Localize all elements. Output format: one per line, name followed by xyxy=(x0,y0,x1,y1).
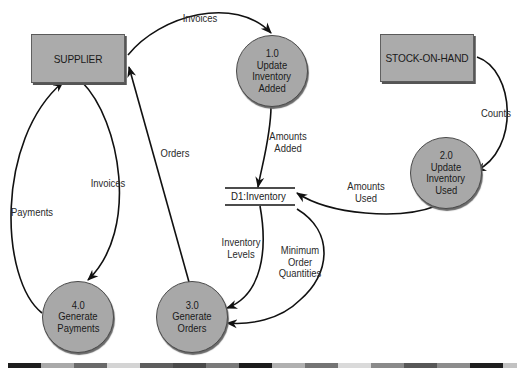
flow-orders xyxy=(129,67,189,282)
flow-label-text: Orders xyxy=(161,148,190,160)
flow-label-text: Used xyxy=(347,193,384,205)
process-label-line: Added xyxy=(258,83,285,95)
bar-segment xyxy=(404,363,437,368)
bar-segment xyxy=(206,363,239,368)
entity-supplier: SUPPLIER xyxy=(31,34,125,83)
data-store-inventory-label: D1:Inventory xyxy=(231,190,286,202)
entity-supplier-label: SUPPLIER xyxy=(54,53,103,65)
bar-segment xyxy=(338,363,371,368)
bar-segment xyxy=(305,363,338,368)
flow-label-text: Added xyxy=(269,143,306,155)
process-update-inventory-used: 2.0 Update Inventory Used xyxy=(410,137,482,209)
flow-label-text: Levels xyxy=(222,249,261,261)
bar-segment xyxy=(74,363,107,368)
flow-label-text: Amounts xyxy=(269,131,306,143)
flow-label-text: Invoices xyxy=(91,178,126,190)
flow-label-invoices-top: Invoices xyxy=(183,13,218,25)
bar-segment xyxy=(437,363,470,368)
flow-label-text: Quantities xyxy=(279,268,322,280)
bar-segment xyxy=(239,363,272,368)
process-label-line: Used xyxy=(435,185,457,197)
decorative-gray-bar xyxy=(8,363,517,368)
flow-label-text: Invoices xyxy=(183,13,218,25)
flow-label-invoices-left: Invoices xyxy=(91,178,126,190)
flow-label-inventory-levels: Inventory Levels xyxy=(222,237,261,260)
process-generate-orders: 3.0 Generate Orders xyxy=(156,281,228,353)
bar-segment xyxy=(272,363,305,368)
flow-label-amounts-added: Amounts Added xyxy=(269,131,306,154)
bar-segment xyxy=(173,363,206,368)
process-label-line: Payments xyxy=(57,323,99,335)
bar-segment xyxy=(107,363,140,368)
flow-label-text: Amounts xyxy=(347,181,384,193)
process-update-inventory-added: 1.0 Update Inventory Added xyxy=(236,35,308,107)
entity-stock-on-hand: STOCK-ON-HAND xyxy=(380,34,474,82)
process-generate-payments: 4.0 Generate Payments xyxy=(42,281,114,353)
flow-label-orders: Orders xyxy=(161,148,190,160)
bar-segment xyxy=(8,363,41,368)
flow-label-counts: Counts xyxy=(481,108,511,120)
bar-segment xyxy=(371,363,404,368)
bar-segment xyxy=(503,363,517,368)
process-label-line: Orders xyxy=(178,323,207,335)
bar-segment xyxy=(140,363,173,368)
flow-payments xyxy=(11,82,63,313)
flow-label-minimum-order-quantities: Minimum Order Quantities xyxy=(279,245,322,280)
flow-label-text: Payments xyxy=(11,207,53,219)
data-flow-diagram: SUPPLIER STOCK-ON-HAND 1.0 Update Invent… xyxy=(0,0,524,374)
entity-stock-on-hand-label: STOCK-ON-HAND xyxy=(386,52,469,64)
bar-segment xyxy=(470,363,503,368)
flow-label-text: Counts xyxy=(481,108,511,120)
flow-label-amounts-used: Amounts Used xyxy=(347,181,384,204)
flow-label-text: Inventory xyxy=(222,237,261,249)
flow-label-payments: Payments xyxy=(11,207,53,219)
flow-label-text: Minimum xyxy=(279,245,322,257)
bar-segment xyxy=(41,363,74,368)
